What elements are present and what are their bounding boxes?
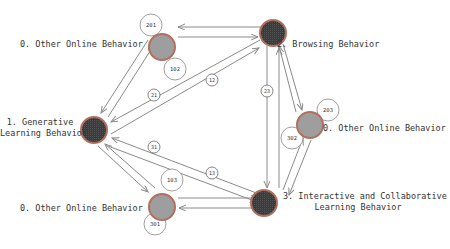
edge-other-top-to-generative [101,40,148,113]
svg-text:302: 302 [287,135,297,141]
svg-text:201: 201 [146,22,156,28]
edge-browsing-to-generative [111,40,260,122]
svg-text:21: 21 [151,92,157,98]
node-label-other-bottom: 0. Other Online Behavior [20,203,140,214]
node-label-other-right: 0. Other Online Behavior [323,123,446,134]
bubble-102-top: 102 [164,58,186,80]
node-other-top[interactable] [149,34,175,60]
node-label-interactive-line1: 3. Interactive and Collaborative [283,191,433,202]
edge-generative-to-interactive [108,146,257,202]
edge-label-23: 23 [261,85,273,97]
svg-text:102: 102 [170,66,180,72]
svg-text:23: 23 [264,88,270,94]
node-label-other-top: 0. Other Online Behavior [20,39,140,50]
bubble-201-top: 201 [140,14,162,36]
svg-text:12: 12 [209,77,215,83]
edge-label-12: 12 [206,74,218,86]
node-label-generative: 1. Generative Learning Behavior [0,117,80,139]
node-label-browsing: 2. Browsing Behavior [277,39,379,50]
node-other-bottom[interactable] [149,194,175,220]
node-label-generative-line1: 1. Generative [0,117,80,128]
svg-text:103: 103 [167,177,177,183]
node-label-generative-line2: Learning Behavior [0,128,80,139]
edge-generative-to-browsing [111,48,259,134]
edge-interactive-to-generative [112,138,259,194]
node-interactive[interactable] [251,190,277,216]
edge-other-bottom-to-generative [105,144,155,188]
edge-generative-to-other-bottom [98,146,148,192]
edge-generative-to-other-top [108,45,154,117]
svg-text:203: 203 [323,107,333,113]
edge-label-31: 31 [148,141,160,153]
svg-text:301: 301 [150,221,160,227]
node-label-interactive-line2: Learning Behavior [283,202,433,213]
bubble-103-bottom: 103 [161,169,183,191]
edge-label-13: 13 [206,167,218,179]
node-label-interactive: 3. Interactive and Collaborative Learnin… [283,191,433,213]
svg-text:31: 31 [151,144,157,150]
svg-text:13: 13 [209,170,215,176]
edge-label-21: 21 [148,89,160,101]
node-other-right[interactable] [297,112,323,138]
